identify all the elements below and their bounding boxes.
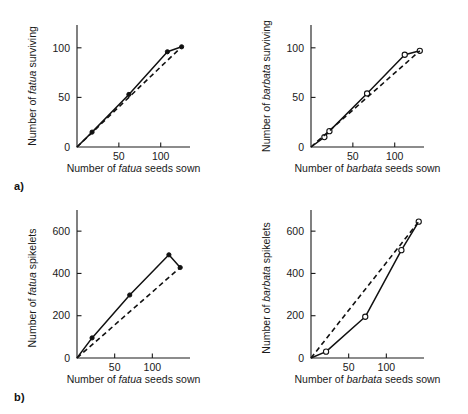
y-tick-label: 100 xyxy=(286,42,304,54)
panel-a-right: 50100050100Number of barbata seeds sownN… xyxy=(234,0,468,200)
x-tick-label: 100 xyxy=(378,361,396,373)
chart-canvas-panel-b-left: 501000200400600Number of fatua seeds sow… xyxy=(0,200,234,414)
panel-label-a: a) xyxy=(14,180,24,192)
svg-text:Number of fatua surviving: Number of fatua surviving xyxy=(26,26,38,146)
svg-text:Number of fatua seeds sown: Number of fatua seeds sown xyxy=(67,162,201,174)
chart-canvas-panel-a-right: 50100050100Number of barbata seeds sownN… xyxy=(234,0,468,200)
figure-root: 50100050100Number of fatua seeds sownNum… xyxy=(0,0,468,414)
data-point xyxy=(323,349,328,354)
y-tick-label: 400 xyxy=(286,267,304,279)
y-tick-label: 200 xyxy=(52,309,70,321)
x-tick-label: 100 xyxy=(152,150,170,162)
x-tick-label: 50 xyxy=(347,150,359,162)
x-tick-label: 50 xyxy=(343,361,355,373)
y-tick-label: 50 xyxy=(58,91,70,103)
panel-label-b: b) xyxy=(14,391,25,403)
data-point xyxy=(417,48,422,53)
data-point xyxy=(363,314,368,319)
y-tick-label: 600 xyxy=(286,225,304,237)
x-tick-label: 50 xyxy=(109,361,121,373)
panel-a-left: 50100050100Number of fatua seeds sownNum… xyxy=(0,0,234,200)
series-observed xyxy=(77,255,180,358)
svg-text:Number of fatua seeds sown: Number of fatua seeds sown xyxy=(67,373,201,385)
x-tick-label: 50 xyxy=(113,150,125,162)
data-point xyxy=(90,336,94,340)
panel-b-right: 501000200400600Number of barbata seeds s… xyxy=(234,200,468,414)
svg-text:Number of barbata spikelets: Number of barbata spikelets xyxy=(260,222,272,353)
data-point xyxy=(165,50,169,54)
y-tick-label: 0 xyxy=(298,141,304,153)
data-point xyxy=(128,293,132,297)
y-tick-label: 0 xyxy=(64,141,70,153)
y-tick-label: 400 xyxy=(52,267,70,279)
svg-text:Number of barbata surviving: Number of barbata surviving xyxy=(260,20,272,152)
x-tick-label: 100 xyxy=(386,150,404,162)
series-expected xyxy=(77,268,180,358)
series-expected xyxy=(311,222,419,358)
svg-text:Number of barbata seeds sown: Number of barbata seeds sown xyxy=(295,373,441,385)
y-tick-label: 0 xyxy=(64,352,70,364)
series-expected xyxy=(311,51,420,147)
chart-canvas-panel-b-right: 501000200400600Number of barbata seeds s… xyxy=(234,200,468,414)
data-point xyxy=(399,248,404,253)
svg-text:Number of barbata seeds sown: Number of barbata seeds sown xyxy=(295,162,441,174)
chart-canvas-panel-a-left: 50100050100Number of fatua seeds sownNum… xyxy=(0,0,234,200)
y-tick-label: 50 xyxy=(292,91,304,103)
svg-text:Number of fatua spikelets: Number of fatua spikelets xyxy=(26,228,38,347)
x-tick-label: 100 xyxy=(144,361,162,373)
y-tick-label: 0 xyxy=(298,352,304,364)
data-point xyxy=(167,253,171,257)
data-point xyxy=(127,92,131,96)
y-tick-label: 600 xyxy=(52,225,70,237)
data-point xyxy=(402,52,407,57)
y-tick-label: 100 xyxy=(52,42,70,54)
y-tick-label: 200 xyxy=(286,309,304,321)
panel-b-left: 501000200400600Number of fatua seeds sow… xyxy=(0,200,234,414)
